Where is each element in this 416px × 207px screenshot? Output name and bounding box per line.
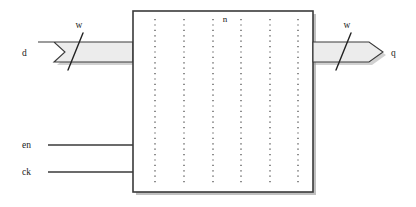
register-block-diagram: d w n w q en ck — [0, 0, 416, 207]
diagram-canvas: d w n w q en ck — [0, 0, 416, 207]
input-bus — [38, 42, 133, 62]
register-bit-count-label: n — [223, 14, 228, 24]
output-bus — [313, 42, 383, 62]
clock-control-label: ck — [22, 167, 31, 177]
output-bus-width-label: w — [344, 20, 351, 30]
output-port-label: q — [391, 48, 396, 58]
enable-control-label: en — [22, 140, 31, 150]
input-port-label: d — [22, 48, 27, 58]
register-block-body — [133, 11, 313, 192]
input-bus-width-label: w — [76, 20, 83, 30]
